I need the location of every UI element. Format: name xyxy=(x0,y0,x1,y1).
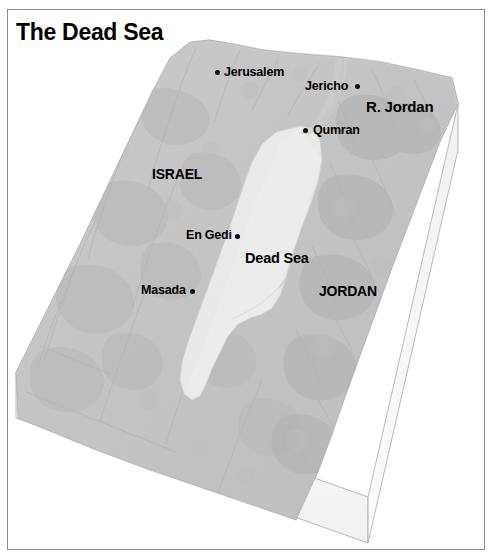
city-dot-en-gedi xyxy=(235,234,240,239)
city-label-masada: Masada xyxy=(141,284,186,297)
city-label-jerusalem: Jerusalem xyxy=(224,66,284,79)
city-dot-jericho xyxy=(355,84,360,89)
river-label-jordan: R. Jordan xyxy=(366,99,433,114)
city-dot-masada xyxy=(190,289,195,294)
water-label-dead-sea: Dead Sea xyxy=(245,251,309,266)
city-dot-jerusalem xyxy=(215,70,220,75)
page-title: The Dead Sea xyxy=(16,21,163,44)
map-relief-canvas xyxy=(0,0,493,559)
city-label-jericho: Jericho xyxy=(305,80,348,93)
city-dot-qumran xyxy=(303,128,308,133)
dead-sea-map-figure: The Dead Sea Jerusalem Jericho Qumran En… xyxy=(0,0,493,559)
city-label-qumran: Qumran xyxy=(313,124,360,137)
region-label-jordan: JORDAN xyxy=(319,284,377,298)
city-label-en-gedi: En Gedi xyxy=(186,229,232,242)
region-label-israel: ISRAEL xyxy=(152,167,202,181)
